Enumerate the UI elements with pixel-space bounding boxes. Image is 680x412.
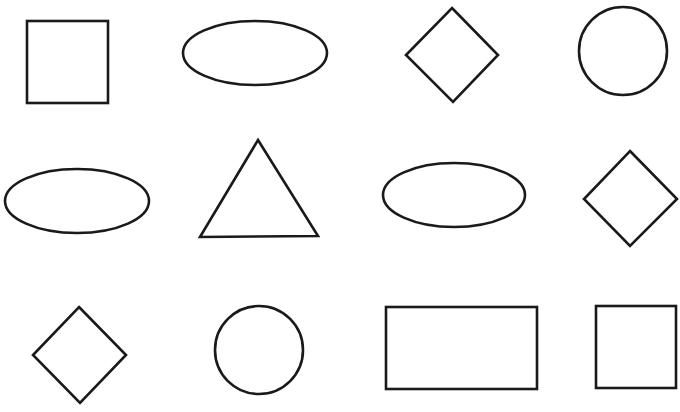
ellipse-shape — [5, 169, 149, 233]
ellipse-shape — [183, 21, 327, 85]
ellipse-shape — [383, 163, 525, 227]
square-shape — [27, 21, 108, 103]
diamond-shape — [584, 151, 677, 246]
circle-shape — [215, 306, 303, 394]
diamond-shape — [33, 307, 126, 403]
rectangle-shape — [386, 307, 537, 389]
triangle-shape — [200, 140, 318, 237]
square-shape — [596, 306, 676, 388]
diamond-shape — [406, 8, 498, 102]
shapes-canvas — [0, 0, 680, 412]
circle-shape — [579, 7, 667, 95]
